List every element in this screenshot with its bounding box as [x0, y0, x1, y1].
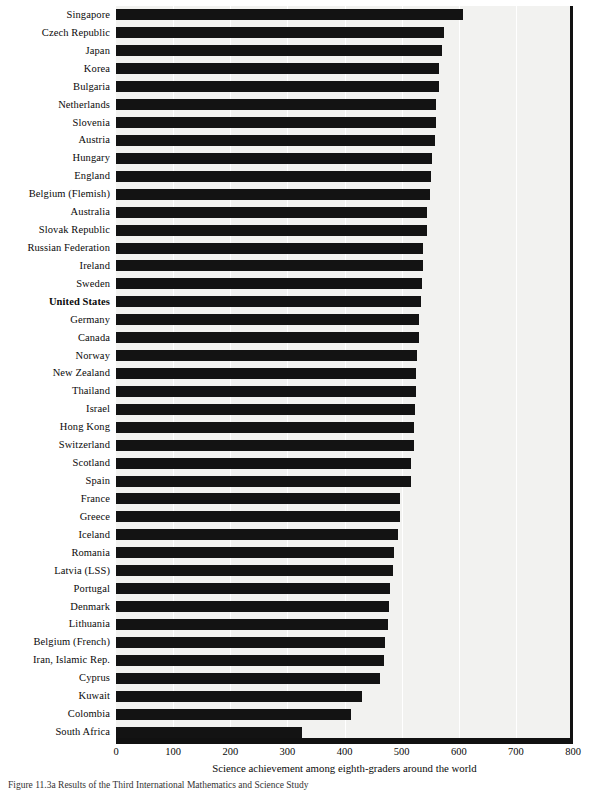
bar — [116, 207, 427, 218]
chart-row: Czech Republic — [0, 24, 607, 42]
category-label: Belgium (Flemish) — [0, 188, 110, 200]
chart-row: Spain — [0, 472, 607, 490]
bar — [116, 45, 442, 56]
chart-row: France — [0, 490, 607, 508]
chart-row: Canada — [0, 329, 607, 347]
category-label: Korea — [0, 63, 110, 75]
chart-row: Bulgaria — [0, 78, 607, 96]
category-label: Switzerland — [0, 439, 110, 451]
bar — [116, 655, 384, 666]
bar — [116, 189, 430, 200]
category-label: Spain — [0, 475, 110, 487]
category-label: Colombia — [0, 708, 110, 720]
chart-row: Slovenia — [0, 114, 607, 132]
chart-row: Kuwait — [0, 687, 607, 705]
category-label: Iceland — [0, 529, 110, 541]
chart-row: Israel — [0, 400, 607, 418]
chart-row: Lithuania — [0, 616, 607, 634]
category-label: Hungary — [0, 152, 110, 164]
x-tick-label: 0 — [113, 745, 118, 758]
category-label: United States — [0, 296, 110, 308]
category-label: Czech Republic — [0, 27, 110, 39]
category-label: New Zealand — [0, 367, 110, 379]
category-label: Japan — [0, 45, 110, 57]
bar — [116, 547, 394, 558]
chart-row: Russian Federation — [0, 239, 607, 257]
bar — [116, 493, 400, 504]
category-label: Latvia (LSS) — [0, 565, 110, 577]
chart-row: Slovak Republic — [0, 221, 607, 239]
category-label: Romania — [0, 547, 110, 559]
x-tick-label: 800 — [565, 745, 581, 758]
bar — [116, 171, 431, 182]
category-label: Ireland — [0, 260, 110, 272]
category-label: Canada — [0, 332, 110, 344]
bar — [116, 81, 439, 92]
x-axis-line — [116, 741, 573, 744]
bar — [116, 225, 427, 236]
chart-row: Latvia (LSS) — [0, 562, 607, 580]
chart-row: Ireland — [0, 257, 607, 275]
chart-row: Japan — [0, 42, 607, 60]
bar — [116, 476, 411, 487]
category-label: Denmark — [0, 601, 110, 613]
bar — [116, 296, 421, 307]
chart-row: Sweden — [0, 275, 607, 293]
bar — [116, 511, 400, 522]
category-label: France — [0, 493, 110, 505]
bar — [116, 153, 432, 164]
figure-caption: Figure 11.3a Results of the Third Intern… — [8, 780, 600, 791]
bar — [116, 691, 362, 702]
category-label: Belgium (French) — [0, 636, 110, 648]
category-label: Greece — [0, 511, 110, 523]
bar — [116, 727, 302, 738]
bar — [116, 458, 411, 469]
category-label: Iran, Islamic Rep. — [0, 654, 110, 666]
category-label: Sweden — [0, 278, 110, 290]
bar — [116, 350, 417, 361]
chart-row: England — [0, 167, 607, 185]
chart-row: Singapore — [0, 6, 607, 24]
bar — [116, 709, 351, 720]
x-tick-label: 300 — [280, 745, 296, 758]
x-axis-title: Science achievement among eighth-graders… — [116, 762, 573, 775]
chart-row: Romania — [0, 544, 607, 562]
chart-row: Scotland — [0, 454, 607, 472]
bar — [116, 332, 419, 343]
chart-row: Netherlands — [0, 96, 607, 114]
bar — [116, 278, 422, 289]
bar — [116, 63, 439, 74]
category-label: Hong Kong — [0, 421, 110, 433]
x-tick-label: 400 — [337, 745, 353, 758]
x-tick-label: 700 — [508, 745, 524, 758]
chart-row: Korea — [0, 60, 607, 78]
category-label: Scotland — [0, 457, 110, 469]
category-label: Slovak Republic — [0, 224, 110, 236]
x-axis-tick-labels: 0100200300400500600700800 — [0, 745, 607, 759]
chart-row: Denmark — [0, 598, 607, 616]
bar — [116, 673, 380, 684]
bar — [116, 422, 414, 433]
chart-row: Belgium (French) — [0, 633, 607, 651]
bar — [116, 135, 435, 146]
bar — [116, 9, 463, 20]
bar — [116, 27, 444, 38]
chart-row: South Africa — [0, 723, 607, 741]
bar — [116, 99, 436, 110]
category-label: Thailand — [0, 385, 110, 397]
bar — [116, 583, 390, 594]
bar — [116, 243, 423, 254]
chart-row: Colombia — [0, 705, 607, 723]
bar — [116, 601, 389, 612]
category-label: Austria — [0, 134, 110, 146]
x-tick-label: 100 — [165, 745, 181, 758]
chart-row: Cyprus — [0, 669, 607, 687]
chart-row: United States — [0, 293, 607, 311]
chart-row: Thailand — [0, 382, 607, 400]
category-label: Norway — [0, 350, 110, 362]
category-label: Slovenia — [0, 117, 110, 129]
category-label: Portugal — [0, 583, 110, 595]
x-tick-label: 500 — [394, 745, 410, 758]
chart-row: Iran, Islamic Rep. — [0, 651, 607, 669]
